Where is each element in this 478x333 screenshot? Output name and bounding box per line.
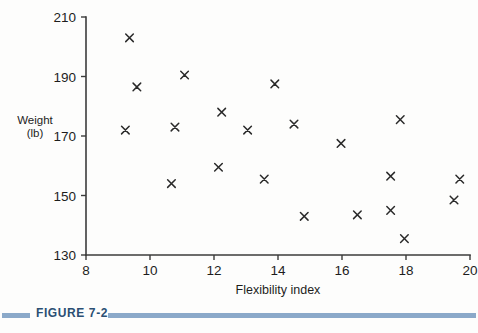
scatter-plot: Weight (lb) 130150170190210 810121416182…	[0, 0, 478, 300]
figure-container: Weight (lb) 130150170190210 810121416182…	[0, 0, 478, 333]
data-point-marker	[244, 126, 252, 134]
data-point-marker	[171, 123, 179, 131]
data-point-marker	[456, 175, 464, 183]
data-point-marker	[450, 196, 458, 204]
figure-caption-bar: FIGURE 7-2	[0, 300, 478, 333]
data-point-marker	[290, 120, 298, 128]
data-point-marker	[122, 126, 130, 134]
y-tick-label: 210	[53, 10, 76, 25]
data-point-marker	[168, 180, 176, 188]
y-tick-group: 130150170190210	[53, 10, 86, 263]
x-tick-label: 12	[206, 263, 221, 278]
x-tick-label: 14	[270, 263, 286, 278]
data-point-marker	[387, 207, 395, 215]
caption-rule-left	[2, 313, 30, 318]
x-tick-label: 16	[334, 263, 349, 278]
data-markers-group	[122, 34, 464, 242]
figure-label: FIGURE 7-2	[36, 306, 108, 320]
data-point-marker	[337, 140, 345, 148]
x-tick-label: 18	[398, 263, 413, 278]
data-point-marker	[396, 116, 404, 124]
caption-rule-right	[108, 313, 476, 318]
plot-svg: 130150170190210 8101214161820 Flexibilit…	[0, 0, 478, 300]
data-point-marker	[218, 108, 226, 116]
y-tick-label: 150	[53, 189, 76, 204]
data-point-marker	[401, 235, 409, 243]
y-tick-label: 190	[53, 70, 76, 85]
data-point-marker	[126, 34, 134, 42]
data-point-marker	[133, 83, 141, 91]
data-point-marker	[260, 175, 268, 183]
x-axis-title: Flexibility index	[236, 283, 322, 297]
data-point-marker	[181, 71, 189, 79]
y-tick-label: 130	[53, 248, 76, 263]
data-point-marker	[215, 163, 223, 171]
data-point-marker	[271, 80, 279, 88]
axes-group	[86, 17, 470, 255]
data-point-marker	[300, 213, 308, 221]
y-tick-label: 170	[53, 129, 76, 144]
x-tick-label: 8	[82, 263, 90, 278]
data-point-marker	[354, 211, 362, 219]
x-tick-label: 10	[142, 263, 157, 278]
x-tick-label: 20	[462, 263, 477, 278]
x-tick-group: 8101214161820	[82, 255, 477, 278]
data-point-marker	[387, 172, 395, 180]
